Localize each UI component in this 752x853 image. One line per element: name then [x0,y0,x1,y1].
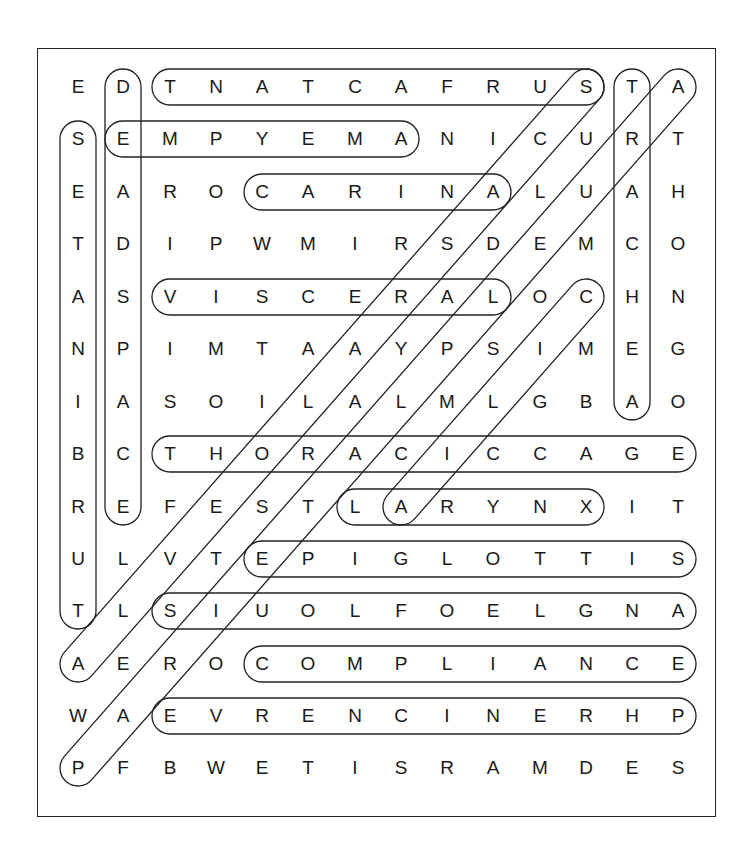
grid-cell[interactable]: I [196,277,236,317]
grid-cell[interactable]: E [58,67,98,107]
grid-cell[interactable]: I [612,487,652,527]
grid-cell[interactable]: G [658,329,698,369]
grid-cell[interactable]: M [427,382,467,422]
grid-cell[interactable]: N [196,67,236,107]
grid-cell[interactable]: A [103,172,143,212]
grid-cell[interactable]: L [335,591,375,631]
grid-cell[interactable]: Y [242,119,282,159]
grid-cell[interactable]: L [473,277,513,317]
grid-cell[interactable]: S [58,119,98,159]
grid-cell[interactable]: P [658,696,698,736]
grid-cell[interactable]: A [58,644,98,684]
grid-cell[interactable]: E [150,696,190,736]
grid-cell[interactable]: L [103,539,143,579]
grid-cell[interactable]: S [658,748,698,788]
grid-cell[interactable]: L [103,591,143,631]
grid-cell[interactable]: I [335,748,375,788]
grid-cell[interactable]: E [103,487,143,527]
grid-cell[interactable]: C [473,434,513,474]
grid-cell[interactable]: E [473,591,513,631]
grid-cell[interactable]: O [196,172,236,212]
grid-cell[interactable]: R [150,644,190,684]
grid-cell[interactable]: G [612,434,652,474]
grid-cell[interactable]: E [103,119,143,159]
grid-cell[interactable]: V [196,696,236,736]
grid-cell[interactable]: O [520,277,560,317]
grid-cell[interactable]: I [150,329,190,369]
grid-cell[interactable]: E [242,748,282,788]
grid-cell[interactable]: A [381,67,421,107]
grid-cell[interactable]: E [58,172,98,212]
grid-cell[interactable]: E [242,539,282,579]
grid-cell[interactable]: T [288,748,328,788]
grid-cell[interactable]: T [150,434,190,474]
grid-cell[interactable]: C [242,644,282,684]
grid-cell[interactable]: S [150,382,190,422]
grid-cell[interactable]: F [381,591,421,631]
grid-cell[interactable]: M [150,119,190,159]
grid-cell[interactable]: I [612,539,652,579]
grid-cell[interactable]: R [612,119,652,159]
grid-cell[interactable]: F [150,487,190,527]
grid-cell[interactable]: X [566,487,606,527]
grid-cell[interactable]: S [658,539,698,579]
grid-cell[interactable]: L [520,591,560,631]
grid-cell[interactable]: B [566,382,606,422]
grid-cell[interactable]: S [150,591,190,631]
grid-cell[interactable]: W [58,696,98,736]
grid-cell[interactable]: V [150,539,190,579]
grid-cell[interactable]: T [58,224,98,264]
grid-cell[interactable]: S [473,329,513,369]
grid-cell[interactable]: E [612,329,652,369]
grid-cell[interactable]: R [427,487,467,527]
grid-cell[interactable]: T [658,119,698,159]
grid-cell[interactable]: C [381,434,421,474]
grid-cell[interactable]: N [520,487,560,527]
grid-cell[interactable]: F [427,67,467,107]
grid-cell[interactable]: C [103,434,143,474]
grid-cell[interactable]: C [335,67,375,107]
grid-cell[interactable]: W [196,748,236,788]
grid-cell[interactable]: P [381,644,421,684]
grid-cell[interactable]: E [658,644,698,684]
grid-cell[interactable]: M [335,644,375,684]
grid-cell[interactable]: E [103,644,143,684]
grid-cell[interactable]: D [103,224,143,264]
grid-cell[interactable]: R [381,224,421,264]
grid-cell[interactable]: S [427,224,467,264]
grid-cell[interactable]: U [566,172,606,212]
grid-cell[interactable]: L [381,382,421,422]
grid-cell[interactable]: A [288,329,328,369]
grid-cell[interactable]: L [335,487,375,527]
grid-cell[interactable]: R [566,696,606,736]
grid-cell[interactable]: S [381,748,421,788]
grid-cell[interactable]: S [103,277,143,317]
grid-cell[interactable]: R [242,696,282,736]
grid-cell[interactable]: T [520,539,560,579]
grid-cell[interactable]: L [473,382,513,422]
grid-cell[interactable]: V [150,277,190,317]
grid-cell[interactable]: T [288,487,328,527]
grid-cell[interactable]: O [242,434,282,474]
grid-cell[interactable]: W [242,224,282,264]
grid-cell[interactable]: R [335,172,375,212]
grid-cell[interactable]: A [288,172,328,212]
grid-cell[interactable]: O [288,591,328,631]
grid-cell[interactable]: S [566,67,606,107]
grid-cell[interactable]: A [473,748,513,788]
grid-cell[interactable]: A [473,172,513,212]
grid-cell[interactable]: A [242,67,282,107]
grid-cell[interactable]: M [566,329,606,369]
grid-cell[interactable]: M [288,224,328,264]
grid-cell[interactable]: I [473,119,513,159]
grid-cell[interactable]: I [427,434,467,474]
grid-cell[interactable]: S [242,277,282,317]
grid-cell[interactable]: E [288,696,328,736]
grid-cell[interactable]: I [473,644,513,684]
grid-cell[interactable]: A [103,382,143,422]
grid-cell[interactable]: A [612,382,652,422]
grid-cell[interactable]: C [242,172,282,212]
grid-cell[interactable]: O [658,382,698,422]
grid-cell[interactable]: A [612,172,652,212]
grid-cell[interactable]: M [520,748,560,788]
